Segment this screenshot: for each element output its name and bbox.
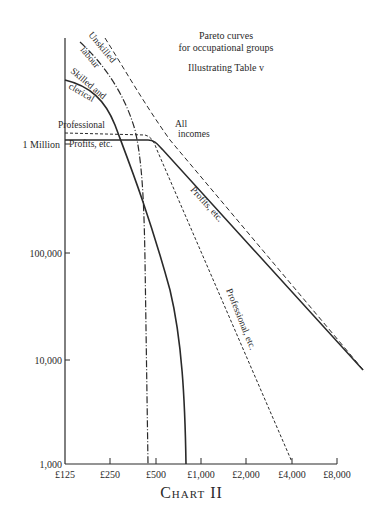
- x-tick-label-4000: £4,000: [278, 469, 306, 480]
- series-professional: [65, 133, 292, 462]
- y-ticks: [65, 144, 70, 360]
- label-profits-diagonal: Profits, etc.: [189, 185, 226, 224]
- x-tick-label-250: £250: [100, 469, 120, 480]
- chart-title-line1: Pareto curves: [199, 30, 253, 41]
- x-tick-label-8000: £8,000: [323, 469, 351, 480]
- label-profits-axis: Profits, etc.: [69, 139, 113, 149]
- label-professional-diagonal: Professional, etc.: [224, 287, 258, 351]
- series-skilled-clerical: [65, 80, 186, 464]
- chart-subtitle: Illustrating Table v: [188, 62, 264, 73]
- chart-title-line2: for occupational groups: [179, 42, 274, 53]
- x-tick-label-2000: £2,000: [232, 469, 260, 480]
- label-all: All: [175, 119, 188, 129]
- label-incomes: incomes: [178, 129, 210, 139]
- chart-caption: Chart II: [0, 484, 383, 502]
- y-tick-label-100k: 100,000: [30, 248, 63, 259]
- y-tick-label-10k: 10,000: [35, 355, 63, 366]
- label-professional: Professional: [58, 120, 105, 130]
- x-ticks: [110, 458, 337, 464]
- series-unskilled-labour: [80, 42, 148, 464]
- pareto-chart: Pareto curves for occupational groups Il…: [0, 0, 383, 523]
- x-tick-label-125: £125: [55, 469, 75, 480]
- x-tick-label-1000: £1,000: [187, 469, 215, 480]
- x-tick-label-500: £500: [146, 469, 166, 480]
- y-tick-label-1m: 1 Million: [22, 139, 60, 150]
- series-profits: [65, 140, 363, 370]
